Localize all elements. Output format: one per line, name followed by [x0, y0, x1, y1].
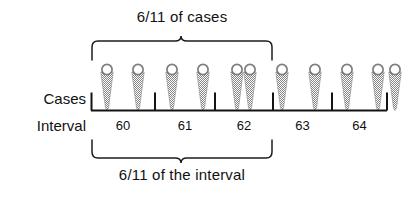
case-marker	[276, 64, 288, 110]
case-marker	[132, 64, 144, 110]
tick-label-64: 64	[340, 118, 380, 133]
interval-cases-figure: 6/11 of cases Cases Interval 6/11 of the…	[0, 0, 413, 198]
case-marker	[372, 64, 384, 110]
figure-canvas	[0, 0, 413, 198]
case-marker	[309, 64, 321, 110]
case-marker	[389, 64, 401, 110]
case-marker	[341, 64, 353, 110]
cases-brace	[92, 36, 272, 60]
case-marker	[166, 64, 178, 110]
interval-brace	[92, 140, 272, 163]
case-marker	[231, 64, 243, 110]
tick-label-61: 61	[165, 118, 205, 133]
tick-label-62: 62	[224, 118, 264, 133]
case-marker	[244, 64, 256, 110]
case-markers-group	[101, 64, 401, 110]
case-marker	[197, 64, 209, 110]
tick-label-60: 60	[103, 118, 143, 133]
case-marker	[101, 64, 113, 110]
tick-label-63: 63	[283, 118, 323, 133]
